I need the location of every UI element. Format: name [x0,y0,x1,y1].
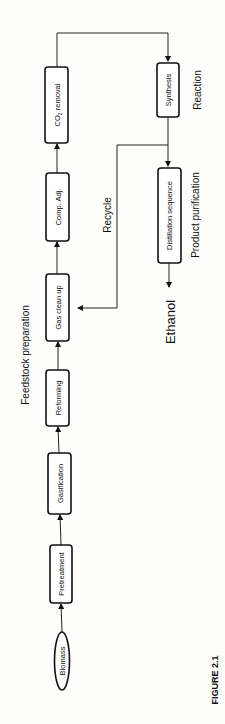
figure-caption: FIGURE 2.1 [210,655,220,704]
product-ethanol: Ethanol [163,300,178,344]
stage-feedstock-preparation: Feedstock preparation [20,305,31,405]
stage-reaction: Reaction [192,70,203,109]
label-gas-clean-up: Gas clean up [54,285,63,329]
arrow-biomass-pretreatment [61,604,62,632]
stage-recycle: Recycle [102,197,113,233]
arrow-recycle [78,145,168,308]
arrow-gasification-reforming [58,427,59,453]
label-distillation-sequence: Distillation sequence [165,181,174,250]
label-reforming: Reforming [54,381,63,416]
label-pretreatment: Pretreatment [57,551,66,595]
stage-product-purification: Product purification [190,172,201,258]
label-biomass: Biomass [58,646,67,675]
label-synthesis: Synthesis [164,73,173,106]
process-flow-diagram: Biomass Pretreatment Gasification Reform… [0,0,225,724]
label-co2-removal: CO2 removal [53,83,64,126]
label-gasification: Gasification [56,464,65,503]
arrow-pretreatment-gasification [60,515,61,545]
label-comp-adj: Comp. Adj. [54,189,63,226]
arrow-co2-synthesis [57,33,168,67]
